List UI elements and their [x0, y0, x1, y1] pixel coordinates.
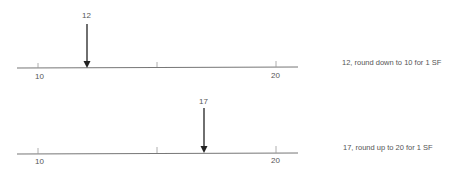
number-line-1: [17, 24, 298, 68]
tick-label-10: 10: [35, 72, 44, 81]
caption: 12, round down to 10 for 1 SF: [342, 58, 441, 67]
arrow-down-icon: [84, 24, 91, 68]
value-label: 12: [82, 11, 91, 20]
caption: 17, round up to 20 for 1 SF: [343, 143, 433, 152]
value-label: 17: [199, 97, 208, 106]
arrow-down-icon: [201, 108, 208, 153]
tick-label-20: 20: [271, 71, 280, 80]
tick-label-20: 20: [271, 156, 280, 165]
tick-label-10: 10: [35, 157, 44, 166]
number-line-2: [17, 108, 298, 154]
